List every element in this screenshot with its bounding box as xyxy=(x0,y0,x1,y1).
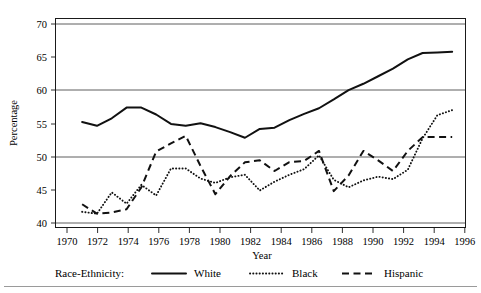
y-tick-label-70: 70 xyxy=(37,19,48,30)
y-tick-label-60: 60 xyxy=(37,85,48,96)
legend-label-black: Black xyxy=(292,267,318,279)
x-tickmarks xyxy=(67,228,465,234)
y-axis-title: Percentage xyxy=(8,100,19,146)
x-tick-label-1988: 1988 xyxy=(332,236,353,247)
legend-label-white: White xyxy=(194,267,221,279)
x-tick-labels: 1970 1972 1974 1976 1978 1980 1982 1984 … xyxy=(57,236,476,247)
x-tick-label-1984: 1984 xyxy=(271,236,293,247)
x-tick-label-1974: 1974 xyxy=(118,236,140,247)
chart-figure: 70 65 60 55 50 45 40 Percentage xyxy=(0,0,481,293)
y-tick-label-55: 55 xyxy=(37,119,48,130)
line-chart-svg: 70 65 60 55 50 45 40 Percentage xyxy=(0,0,481,293)
x-tick-label-1970: 1970 xyxy=(57,236,78,247)
x-tick-label-1986: 1986 xyxy=(301,236,322,247)
y-tick-label-40: 40 xyxy=(37,218,48,229)
x-tick-label-1992: 1992 xyxy=(393,236,414,247)
gridlines xyxy=(56,24,465,223)
legend-title: Race-Ethnicity: xyxy=(55,267,124,279)
x-tick-label-1994: 1994 xyxy=(424,236,446,247)
y-tick-label-65: 65 xyxy=(37,52,48,63)
y-tickmarks xyxy=(51,24,56,223)
legend-label-hispanic: Hispanic xyxy=(384,267,423,279)
y-tick-labels: 70 65 60 55 50 45 40 xyxy=(37,19,48,229)
x-tick-label-1996: 1996 xyxy=(454,236,475,247)
series-group xyxy=(82,52,452,214)
y-tick-label-45: 45 xyxy=(37,185,48,196)
legend: Race-Ethnicity: White Black Hispanic xyxy=(55,267,423,279)
series-line-black xyxy=(82,110,452,214)
x-tick-label-1982: 1982 xyxy=(240,236,261,247)
x-tick-label-1976: 1976 xyxy=(148,236,169,247)
x-tick-label-1990: 1990 xyxy=(363,236,384,247)
x-axis-title: Year xyxy=(252,250,272,261)
y-tick-label-50: 50 xyxy=(37,152,48,163)
x-tick-label-1980: 1980 xyxy=(210,236,231,247)
x-tick-label-1978: 1978 xyxy=(179,236,200,247)
series-line-white xyxy=(82,52,452,138)
series-line-hispanic xyxy=(82,136,452,214)
x-tick-label-1972: 1972 xyxy=(87,236,108,247)
